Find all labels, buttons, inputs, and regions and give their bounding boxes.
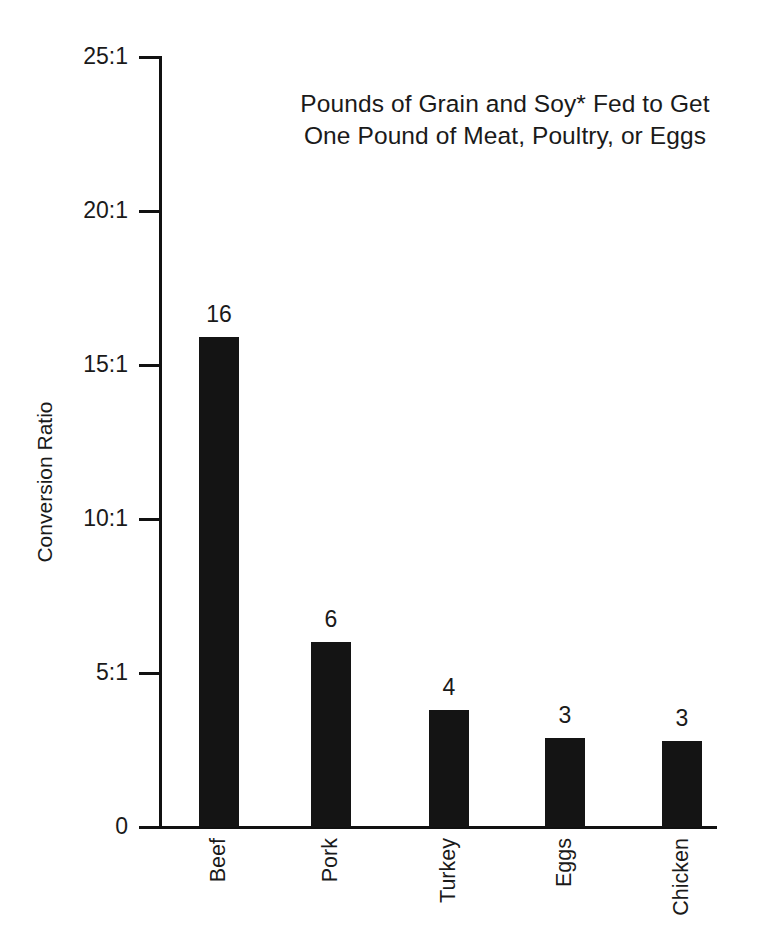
y-tick-mark: [139, 826, 160, 829]
y-tick-label: 5:1: [36, 661, 128, 684]
x-category-label-container: Turkey: [429, 838, 469, 952]
bar: [429, 710, 469, 827]
y-tick-label-container: 20:1: [36, 199, 128, 222]
y-tick-label: 25:1: [36, 45, 128, 68]
y-tick-label-container: 10:1: [36, 507, 128, 530]
y-tick-label: 15:1: [36, 353, 128, 376]
bar: [662, 741, 702, 827]
bar: [545, 738, 585, 827]
chart-title: Pounds of Grain and Soy* Fed to Get One …: [300, 88, 710, 152]
x-category-label: Chicken: [671, 838, 693, 916]
y-tick-mark: [139, 364, 160, 367]
y-tick-label: 0: [36, 815, 128, 838]
y-axis-line: [159, 56, 162, 828]
y-tick-mark: [139, 210, 160, 213]
y-tick-mark: [139, 672, 160, 675]
bar: [199, 337, 239, 827]
x-category-label-container: Eggs: [545, 838, 585, 952]
y-axis-label: Conversion Ratio: [33, 352, 57, 612]
x-category-label: Eggs: [554, 838, 576, 887]
bar-value-label: 3: [642, 707, 722, 730]
bar-value-label: 16: [179, 303, 259, 326]
y-tick-mark: [139, 56, 160, 59]
y-tick-label-container: 0: [36, 815, 128, 838]
y-axis-label-container: Conversion Ratio: [0, 0, 60, 952]
x-category-label-container: Pork: [311, 838, 351, 952]
y-tick-mark: [139, 518, 160, 521]
x-category-label-container: Beef: [199, 838, 239, 952]
y-tick-label: 10:1: [36, 507, 128, 530]
y-tick-label-container: 15:1: [36, 353, 128, 376]
x-category-label: Turkey: [438, 838, 460, 903]
y-tick-label: 20:1: [36, 199, 128, 222]
x-category-label: Beef: [208, 838, 230, 882]
x-category-label-container: Chicken: [662, 838, 702, 952]
bar-value-label: 4: [409, 676, 489, 699]
bar: [311, 642, 351, 827]
y-tick-label-container: 25:1: [36, 45, 128, 68]
y-tick-label-container: 5:1: [36, 661, 128, 684]
bar-chart: Pounds of Grain and Soy* Fed to Get One …: [0, 0, 757, 952]
x-category-label: Pork: [320, 838, 342, 882]
bar-value-label: 6: [291, 608, 371, 631]
bar-value-label: 3: [525, 704, 605, 727]
